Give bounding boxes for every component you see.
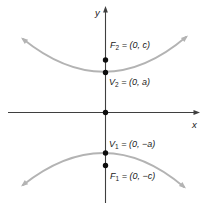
y-axis-label: y	[94, 7, 101, 18]
y-axis-arrowhead	[103, 6, 108, 13]
focus1-point	[103, 163, 108, 168]
focus2-label: F2 = (0, c)	[110, 40, 150, 51]
x-axis-arrowhead	[194, 110, 201, 115]
vertex2-label-value: = (0, a)	[119, 77, 150, 87]
x-axis-label: x	[191, 119, 198, 130]
vertex1-label-value: = (0, −a)	[119, 139, 156, 149]
focus2-point	[103, 57, 108, 62]
focus2-label-value: = (0, c)	[119, 40, 150, 50]
upper-hyperbola-branch	[23, 37, 186, 72]
focus1-label: F1 = (0, −c)	[110, 171, 155, 182]
diagram-canvas: y x F2 = (0, c) V2 = (0, a) V1 = (0, −a)…	[0, 0, 212, 209]
hyperbola-diagram: y x F2 = (0, c) V2 = (0, a) V1 = (0, −a)…	[0, 0, 212, 209]
vertex2-point	[103, 70, 108, 75]
vertex1-point	[103, 150, 108, 155]
lower-hyperbola-branch	[23, 153, 184, 187]
focus1-label-value: = (0, −c)	[119, 171, 155, 181]
vertex1-label: V1 = (0, −a)	[109, 139, 155, 150]
origin-point	[103, 110, 108, 115]
vertex2-label: V2 = (0, a)	[109, 77, 150, 88]
